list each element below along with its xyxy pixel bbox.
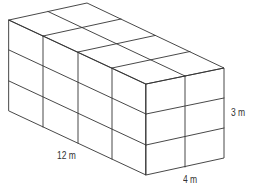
prism-diagram: [0, 0, 256, 190]
side-face: [9, 20, 146, 175]
height-label: 3 m: [231, 107, 245, 118]
length-label: 12 m: [57, 150, 76, 161]
width-label: 4 m: [183, 174, 197, 185]
